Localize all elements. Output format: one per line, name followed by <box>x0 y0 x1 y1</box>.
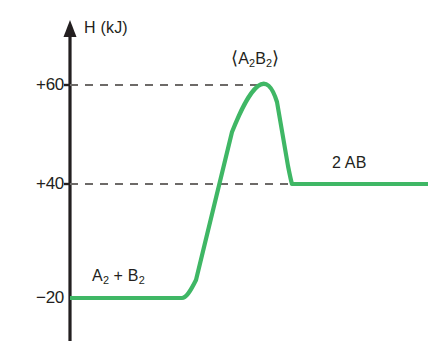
y-axis-title: H (kJ) <box>84 20 128 36</box>
chart-canvas <box>0 0 447 358</box>
energy-diagram-figure: H (kJ) +60 +40 −20 A2 + B2 ⟨A2B2⟩ 2 AB <box>0 0 447 358</box>
y-tick-label-40: +40 <box>18 175 64 192</box>
enthalpy-curve <box>70 84 428 298</box>
reactants-label: A2 + B2 <box>92 268 145 286</box>
products-label: 2 AB <box>332 155 367 171</box>
transition-state-label: ⟨A2B2⟩ <box>231 50 279 69</box>
y-tick-label-minus-20: −20 <box>18 289 64 306</box>
y-tick-label-60: +60 <box>18 76 64 93</box>
